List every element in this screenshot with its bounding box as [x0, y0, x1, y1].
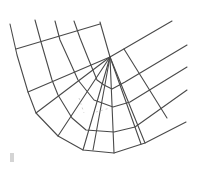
mesh-diagram — [0, 0, 199, 171]
mesh-line — [55, 21, 187, 107]
mesh-line — [36, 57, 110, 113]
mesh-line — [110, 57, 141, 144]
mesh-line — [110, 57, 114, 153]
mesh-line — [74, 21, 187, 89]
mesh-line — [28, 57, 110, 92]
mesh-line — [16, 24, 100, 49]
scale-marker — [10, 153, 14, 162]
mesh-line — [110, 57, 145, 143]
faint-mark — [96, 108, 110, 112]
mesh-line — [58, 57, 110, 136]
mesh-line — [100, 21, 172, 57]
mesh-line — [93, 57, 110, 150]
mesh-line — [83, 57, 110, 150]
mesh-svg — [0, 0, 199, 171]
